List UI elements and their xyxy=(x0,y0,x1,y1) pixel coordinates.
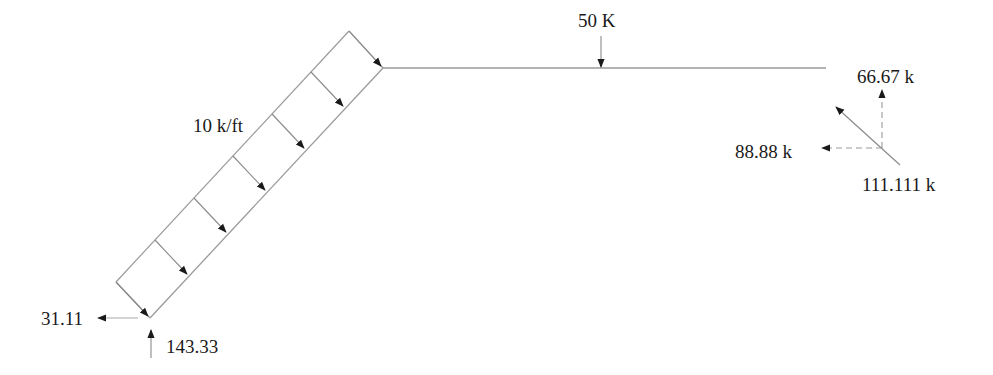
load-arrow-icon xyxy=(116,282,148,316)
right-vertical-reaction-label: 66.67 k xyxy=(857,67,914,86)
point-load-label: 50 K xyxy=(578,11,615,30)
load-arrow-icon xyxy=(311,72,343,106)
load-arrow-icon xyxy=(349,31,381,66)
right-resultant-reaction-arrow xyxy=(836,107,900,165)
left-horizontal-reaction-label: 31.11 xyxy=(41,309,83,328)
distributed-load-label: 10 k/ft xyxy=(193,116,243,135)
right-horizontal-reaction-label: 88.88 k xyxy=(735,142,792,161)
load-arrow-icon xyxy=(272,114,304,148)
diagram-graphics xyxy=(0,0,993,375)
distributed-load-arrows xyxy=(116,31,381,316)
distributed-load-block xyxy=(116,31,383,318)
load-arrow-icon xyxy=(233,156,265,190)
free-body-diagram: 10 k/ft 50 K 66.67 k 88.88 k 111.111 k 3… xyxy=(0,0,993,375)
inclined-member xyxy=(150,68,383,318)
left-vertical-reaction-label: 143.33 xyxy=(166,337,218,356)
right-resultant-reaction-label: 111.111 k xyxy=(862,175,935,194)
load-arrow-icon xyxy=(155,240,187,274)
load-arrow-icon xyxy=(194,198,226,232)
